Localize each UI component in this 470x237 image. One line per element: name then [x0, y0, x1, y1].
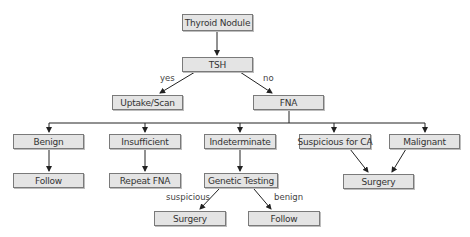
node-follow-genetic: Follow	[248, 211, 320, 226]
node-suspicious-for-ca: Suspicious for CA	[299, 134, 371, 149]
node-uptake-scan: Uptake/Scan	[112, 95, 183, 110]
node-thyroid-nodule: Thyroid Nodule	[182, 14, 253, 31]
connector-lines	[0, 0, 470, 237]
node-surgery: Surgery	[343, 174, 414, 189]
node-malignant: Malignant	[389, 134, 460, 149]
node-surgery-genetic: Surgery	[154, 211, 226, 226]
node-insufficient: Insufficient	[109, 134, 181, 149]
flowchart-canvas: Thyroid Nodule TSH Uptake/Scan FNA Benig…	[0, 0, 470, 237]
node-tsh: TSH	[182, 57, 253, 72]
edge-label-suspicious: suspicious	[166, 192, 210, 202]
node-genetic-testing: Genetic Testing	[204, 173, 278, 188]
node-follow: Follow	[13, 173, 84, 188]
node-fna: FNA	[253, 95, 324, 110]
edge-label-yes: yes	[160, 73, 175, 83]
node-indeterminate: Indeterminate	[204, 134, 276, 149]
node-repeat-fna: Repeat FNA	[109, 173, 181, 188]
edge-label-benign: benign	[274, 192, 303, 202]
edge-label-no: no	[263, 73, 274, 83]
node-benign: Benign	[13, 134, 84, 149]
